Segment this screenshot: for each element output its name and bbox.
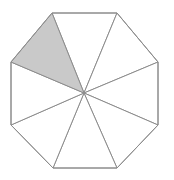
figure-container	[0, 0, 174, 180]
octagon-sector-figure	[0, 0, 174, 180]
